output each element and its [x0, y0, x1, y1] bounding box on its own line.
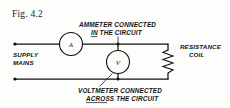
figure-label: Fig. 4.2: [12, 9, 43, 19]
bottom-terminal-dot: [13, 77, 16, 80]
supply-mains-label-line2: MAINS: [13, 59, 34, 66]
resistance-coil-label-line2: COIL: [189, 51, 204, 58]
top-terminal-dot: [13, 42, 16, 45]
circuit-diagram-canvas: Fig. 4.2 AMMETER CONNECTED IN THE CIRCUI…: [0, 0, 230, 108]
resistance-coil-label-line1: RESISTANCE: [180, 43, 222, 50]
figure-container: Fig. 4.2 AMMETER CONNECTED IN THE CIRCUI…: [0, 0, 230, 108]
ammeter-caption-line1: AMMETER CONNECTED: [78, 21, 156, 28]
voltmeter-caption-leader: [100, 74, 112, 86]
resistance-coil-symbol: [163, 50, 173, 73]
voltmeter-letter: V: [116, 59, 121, 67]
voltmeter-bottom-junction-dot: [117, 78, 120, 81]
voltmeter-caption-line2: ACROSS THE CIRCUIT: [85, 95, 159, 102]
ammeter-caption-line2: IN THE CIRCUIT: [91, 29, 143, 36]
voltmeter-caption-line1: VOLTMETER CONNECTED: [78, 87, 162, 94]
ammeter-letter: A: [68, 41, 74, 49]
supply-mains-label-line1: SUPPLY: [13, 51, 39, 58]
